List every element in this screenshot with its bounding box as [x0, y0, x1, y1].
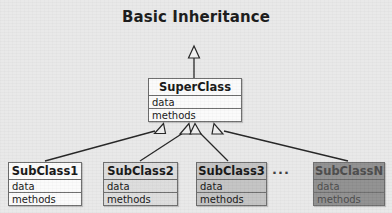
class-name-subclassn: SubClassN — [314, 163, 384, 180]
class-attributes-subclass3: data — [197, 180, 266, 193]
ellipsis-indicator: ... — [272, 165, 290, 175]
class-name-superclass: SuperClass — [149, 79, 241, 96]
generalization-subclass3 — [190, 124, 228, 162]
class-attributes-subclassn: data — [314, 180, 384, 193]
class-methods-superclass: methods — [149, 109, 241, 122]
class-attributes-superclass: data — [149, 96, 241, 109]
class-methods-subclass1: methods — [9, 193, 81, 206]
parent-generalization-arrow — [189, 46, 200, 78]
generalization-subclass2 — [140, 124, 191, 162]
generalization-subclass1 — [45, 124, 166, 162]
generalization-subclassn — [212, 124, 348, 162]
class-methods-subclass3: methods — [197, 193, 266, 206]
class-methods-subclassn: methods — [314, 193, 384, 206]
class-name-subclass2: SubClass2 — [104, 163, 177, 180]
class-box-subclass1[interactable]: SubClass1 data methods — [8, 162, 82, 206]
class-box-subclassn[interactable]: SubClassN data methods — [313, 162, 385, 206]
page-title: Basic Inheritance — [0, 8, 392, 26]
class-attributes-subclass2: data — [104, 180, 177, 193]
class-box-subclass3[interactable]: SubClass3 data methods — [196, 162, 267, 206]
class-name-subclass3: SubClass3 — [197, 163, 266, 180]
class-name-subclass1: SubClass1 — [9, 163, 81, 180]
class-attributes-subclass1: data — [9, 180, 81, 193]
class-box-subclass2[interactable]: SubClass2 data methods — [103, 162, 178, 206]
diagram-canvas: Basic Inheritance SuperClass — [0, 0, 392, 213]
class-box-superclass[interactable]: SuperClass data methods — [148, 78, 242, 122]
class-methods-subclass2: methods — [104, 193, 177, 206]
